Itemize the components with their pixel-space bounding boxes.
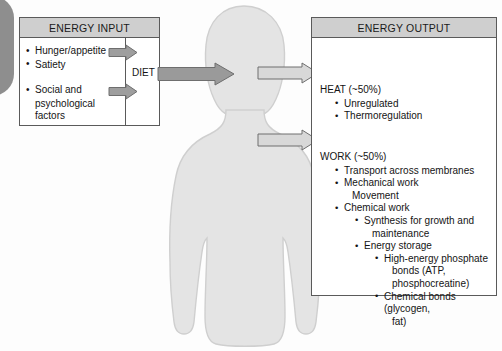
- heat-heading: HEAT (~50%): [312, 84, 496, 97]
- page-tab-artifact: [0, 0, 14, 96]
- list-item: Chemical bonds (glycogen,: [312, 291, 496, 316]
- arrow-right-icon-input-1: [108, 44, 138, 65]
- diagram-canvas: ENERGY INPUT Hunger/appetite Satiety Soc…: [0, 0, 502, 351]
- arrow-right-icon-diet: [157, 62, 235, 90]
- energy-input-header: ENERGY INPUT: [20, 18, 159, 38]
- list-item: Chemical work: [312, 202, 496, 215]
- list-item-continuation: Movement: [312, 190, 496, 203]
- list-item-continuation: maintenance: [312, 228, 496, 241]
- list-item: High-energy phosphate: [312, 253, 496, 266]
- list-item: Transport across membranes: [312, 165, 496, 178]
- energy-input-body: Hunger/appetite Satiety Social and psych…: [20, 38, 159, 125]
- arrow-right-icon-heat: [257, 62, 319, 88]
- arrow-right-icon-input-2: [108, 83, 138, 104]
- work-heading: WORK (~50%): [312, 151, 496, 164]
- arrow-right-icon-work: [257, 129, 319, 155]
- list-item-continuation: phosphocreatine): [312, 278, 496, 291]
- energy-output-header: ENERGY OUTPUT: [312, 18, 496, 38]
- list-item-continuation: bonds (ATP,: [312, 265, 496, 278]
- list-item: Thermoregulation: [312, 110, 496, 123]
- energy-output-panel: ENERGY OUTPUT HEAT (~50%) Unregulated Th…: [311, 17, 497, 296]
- list-item-continuation: fat): [312, 316, 496, 329]
- diet-label: DIET: [132, 67, 155, 78]
- list-item: Energy storage: [312, 240, 496, 253]
- list-item: Mechanical work: [312, 177, 496, 190]
- list-item: Synthesis for growth and: [312, 215, 496, 228]
- energy-output-body: HEAT (~50%) Unregulated Thermoregulation…: [312, 38, 496, 295]
- work-block: WORK (~50%) Transport across membranes M…: [312, 151, 496, 328]
- list-item: Unregulated: [312, 98, 496, 111]
- list-item-continuation: factors: [26, 110, 126, 123]
- human-body-silhouette: [158, 0, 333, 351]
- heat-block: HEAT (~50%) Unregulated Thermoregulation: [312, 84, 496, 123]
